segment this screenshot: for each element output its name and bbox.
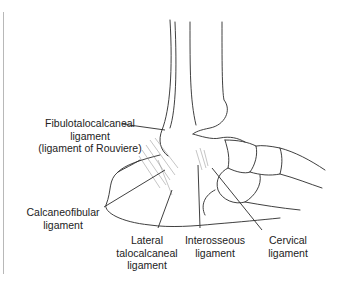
leader-lateral-talocalcaneal (158, 190, 172, 228)
label-line: (ligament of Rouviere) (38, 142, 142, 155)
label-fibulotalocalcaneal-ligament: Fibulotalocalcaneal ligament (ligament o… (38, 117, 142, 155)
leader-cervical (212, 168, 262, 230)
tibia (193, 22, 227, 134)
label-line: ligament (182, 247, 248, 260)
leader-interosseous (198, 165, 200, 228)
label-line: talocalcaneal (115, 247, 179, 260)
label-line: Fibulotalocalcaneal (38, 117, 142, 130)
cuneiform (250, 146, 282, 175)
label-cervical-ligament: Cervical ligament (262, 234, 314, 259)
fibula (160, 20, 171, 156)
label-lateral-talocalcaneal-ligament: Lateral talocalcaneal ligament (115, 234, 179, 272)
label-line: ligament (38, 130, 142, 143)
label-line: Lateral (115, 234, 179, 247)
metatarsal (280, 148, 325, 170)
label-calcaneofibular-ligament: Calcaneofibular ligament (20, 206, 106, 231)
leader-calcaneofibular (104, 170, 165, 207)
label-line: ligament (262, 247, 314, 260)
label-line: Cervical (262, 234, 314, 247)
label-interosseous-ligament: Interosseous ligament (182, 234, 248, 259)
label-line: ligament (115, 259, 179, 272)
label-line: Interosseous (182, 234, 248, 247)
label-line: Calcaneofibular (20, 206, 106, 219)
label-line: ligament (20, 219, 106, 232)
navicular (225, 140, 257, 173)
